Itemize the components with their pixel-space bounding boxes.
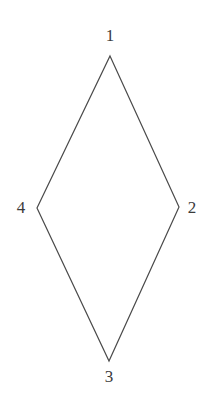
vertex-label-1: 1 <box>96 27 124 44</box>
vertex-label-3: 3 <box>95 368 123 385</box>
vertex-label-4: 4 <box>7 199 35 216</box>
vertex-label-2: 2 <box>178 199 206 216</box>
geometry-figure: 1 2 3 4 <box>0 0 214 409</box>
